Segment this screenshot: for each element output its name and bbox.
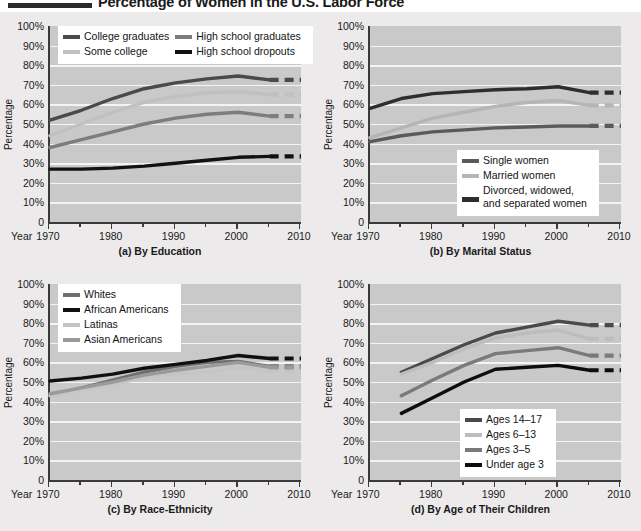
panel-caption: (a) By Education bbox=[0, 245, 320, 257]
x-axis-tick-mark bbox=[556, 224, 557, 229]
y-axis-tick-label: 0 bbox=[324, 475, 364, 485]
x-axis-tick-mark bbox=[368, 224, 369, 229]
legend-swatch-icon bbox=[462, 159, 479, 164]
x-axis-tick-mark bbox=[368, 482, 369, 487]
x-axis-tick-label: 1990 bbox=[482, 488, 505, 500]
legend-swatch-icon bbox=[63, 308, 80, 313]
x-axis-tick-mark bbox=[588, 224, 589, 227]
legend-item[interactable]: Married women bbox=[462, 169, 593, 184]
legend-item-label: Divorced, widowed,and separated women bbox=[483, 184, 587, 211]
legend-item-label-line: Divorced, widowed, bbox=[483, 184, 587, 198]
y-axis-tick-label: 100% bbox=[324, 21, 364, 31]
legend-item[interactable]: High school dropouts bbox=[175, 45, 306, 60]
x-axis-tick-mark bbox=[48, 482, 49, 487]
x-axis-tick-mark bbox=[236, 224, 237, 229]
legend-item[interactable]: Some college bbox=[63, 45, 175, 60]
legend-item[interactable]: Ages 6–13 bbox=[465, 428, 550, 443]
x-axis-tick-label: 2010 bbox=[287, 488, 310, 500]
x-axis-name-label: Year bbox=[11, 488, 32, 500]
y-axis-tick-label: 60% bbox=[4, 357, 44, 367]
legend-item[interactable]: Whites bbox=[63, 288, 175, 303]
legend-row: Whites bbox=[63, 288, 175, 303]
x-axis-name-label: Year bbox=[11, 230, 32, 242]
legend-item-label: High school dropouts bbox=[196, 45, 295, 59]
legend-swatch-icon bbox=[63, 293, 80, 298]
y-axis-tick-label: 90% bbox=[324, 299, 364, 309]
legend-item[interactable]: College graduates bbox=[63, 30, 175, 45]
legend-item-label: Whites bbox=[84, 288, 116, 302]
x-axis-tick-mark bbox=[431, 482, 432, 487]
x-axis-tick-mark bbox=[399, 482, 400, 485]
legend-item[interactable]: Under age 3 bbox=[465, 458, 550, 473]
x-axis-tick-label: 1980 bbox=[99, 488, 122, 500]
x-axis-name-label: Year bbox=[331, 488, 352, 500]
x-axis-tick-label: 2000 bbox=[545, 230, 568, 242]
y-axis-tick-label: 100% bbox=[4, 21, 44, 31]
x-axis-tick-mark bbox=[619, 224, 620, 229]
x-axis-tick-label: 1970 bbox=[356, 488, 379, 500]
y-axis-tick-label: 100% bbox=[4, 279, 44, 289]
x-axis-tick-label: 1990 bbox=[162, 488, 185, 500]
x-axis-tick-mark bbox=[268, 482, 269, 485]
x-axis-tick-label: 1980 bbox=[99, 230, 122, 242]
x-axis-tick-mark bbox=[79, 224, 80, 227]
legend-row: Single women bbox=[462, 154, 593, 169]
y-axis-tick-label: 40% bbox=[4, 139, 44, 149]
panel-b-by-marital-status: Percentage100%90%80%70%60%50%40%30%20%10… bbox=[320, 12, 641, 270]
legend-swatch-icon bbox=[462, 174, 479, 179]
legend: College graduatesHigh school graduatesSo… bbox=[58, 26, 313, 64]
y-axis-tick-label: 60% bbox=[324, 357, 364, 367]
x-axis-tick-mark bbox=[462, 482, 463, 485]
legend-item[interactable]: African Americans bbox=[63, 303, 175, 318]
x-axis-tick-mark bbox=[79, 482, 80, 485]
x-axis-tick-label: 2010 bbox=[607, 488, 630, 500]
y-axis-tick-label: 10% bbox=[4, 455, 44, 465]
x-axis-tick-mark bbox=[174, 482, 175, 487]
y-axis-tick-label: 50% bbox=[324, 377, 364, 387]
legend-swatch-icon bbox=[465, 418, 482, 423]
legend-item[interactable]: Asian Americans bbox=[63, 333, 175, 348]
x-axis-name-label: Year bbox=[331, 230, 352, 242]
x-axis-tick-mark bbox=[431, 224, 432, 229]
legend-row: Divorced, widowed,and separated women bbox=[462, 184, 593, 212]
legend-swatch-icon bbox=[63, 50, 80, 55]
y-axis-tick-label: 40% bbox=[324, 139, 364, 149]
x-axis-tick-label: 2010 bbox=[287, 230, 310, 242]
legend-item[interactable]: Divorced, widowed,and separated women bbox=[462, 184, 593, 212]
legend-row: Ages 6–13 bbox=[465, 428, 550, 443]
x-axis-tick-mark bbox=[268, 224, 269, 227]
y-axis-tick-label: 90% bbox=[4, 299, 44, 309]
y-axis-tick-label: 80% bbox=[324, 60, 364, 70]
y-axis-tick-label: 70% bbox=[324, 80, 364, 90]
legend: WhitesAfrican AmericansLatinasAsian Amer… bbox=[58, 284, 181, 352]
y-axis-tick-label: 10% bbox=[4, 197, 44, 207]
legend-item-label: Ages 14–17 bbox=[486, 413, 542, 427]
x-axis-tick-mark bbox=[142, 224, 143, 227]
x-axis-tick-mark bbox=[236, 482, 237, 487]
x-axis-tick-mark bbox=[525, 482, 526, 485]
x-axis-tick-mark bbox=[299, 224, 300, 229]
legend-item-label: Some college bbox=[84, 45, 148, 59]
x-axis-tick-mark bbox=[619, 482, 620, 487]
x-axis-tick-mark bbox=[48, 224, 49, 229]
panel-caption: (c) By Race-Ethnicity bbox=[0, 503, 320, 515]
y-axis-tick-label: 40% bbox=[4, 397, 44, 407]
legend-item[interactable]: Ages 14–17 bbox=[465, 413, 550, 428]
x-axis-tick-label: 2000 bbox=[225, 488, 248, 500]
y-axis-tick-label: 10% bbox=[324, 197, 364, 207]
y-axis-tick-label: 30% bbox=[324, 416, 364, 426]
legend-row: College graduatesHigh school graduates bbox=[63, 30, 307, 45]
legend-swatch-icon bbox=[462, 197, 479, 202]
legend-item-label: Married women bbox=[483, 169, 555, 183]
x-axis-tick-label: 2010 bbox=[607, 230, 630, 242]
legend-item[interactable]: High school graduates bbox=[175, 30, 306, 45]
legend-item-label: Ages 3–5 bbox=[486, 443, 530, 457]
legend-item[interactable]: Single women bbox=[462, 154, 593, 169]
x-axis-tick-mark bbox=[588, 482, 589, 485]
y-axis-tick-label: 90% bbox=[324, 41, 364, 51]
y-axis-tick-label: 60% bbox=[324, 99, 364, 109]
legend-row: Ages 14–17 bbox=[465, 413, 550, 428]
legend-item[interactable]: Ages 3–5 bbox=[465, 443, 550, 458]
legend-item[interactable]: Latinas bbox=[63, 318, 175, 333]
legend: Single womenMarried womenDivorced, widow… bbox=[457, 150, 599, 216]
